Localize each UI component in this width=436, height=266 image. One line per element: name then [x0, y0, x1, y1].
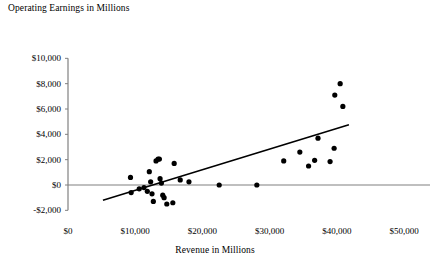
data-point [172, 161, 177, 166]
data-point [306, 163, 311, 168]
y-axis-tick-label: $0 [0, 180, 61, 190]
data-point [147, 169, 152, 174]
data-point [254, 182, 259, 187]
y-axis-tick-label: $10,000 [0, 53, 61, 63]
scatter-chart: Operating Earnings in Millions -$2,000$0… [0, 0, 436, 266]
data-point [145, 189, 150, 194]
x-axis-tick-label: $30,000 [255, 226, 284, 236]
data-point [297, 149, 302, 154]
data-point [129, 190, 134, 195]
data-point [148, 179, 153, 184]
data-point [128, 175, 133, 180]
data-point [159, 181, 164, 186]
x-axis-tick-label: $20,000 [188, 226, 217, 236]
data-point [170, 200, 175, 205]
data-point [186, 179, 191, 184]
data-points [128, 81, 346, 207]
data-point [332, 146, 337, 151]
data-point [327, 159, 332, 164]
data-point [340, 104, 345, 109]
data-point [137, 186, 142, 191]
data-point [315, 136, 320, 141]
data-point [157, 176, 162, 181]
y-axis-tick-label: -$2,000 [0, 205, 61, 215]
y-axis-tick-label: $2,000 [0, 155, 61, 165]
data-point [281, 158, 286, 163]
y-axis-tick-label: $8,000 [0, 79, 61, 89]
x-axis-tick-label: $40,000 [322, 226, 351, 236]
data-point [312, 158, 317, 163]
data-point [338, 81, 343, 86]
data-point [161, 195, 166, 200]
data-point [157, 156, 162, 161]
data-point [332, 92, 337, 97]
y-axis-tick-label: $4,000 [0, 129, 61, 139]
data-point [151, 199, 156, 204]
x-axis-tick-label: $0 [64, 226, 73, 236]
data-point [149, 191, 154, 196]
data-point [217, 182, 222, 187]
y-axis-tick-label: $6,000 [0, 104, 61, 114]
x-axis-tick-label: $50,000 [389, 226, 418, 236]
data-point [178, 177, 183, 182]
axes-layer [65, 58, 430, 210]
x-axis-title: Revenue in Millions [175, 245, 254, 255]
data-point [164, 201, 169, 206]
x-axis-tick-label: $10,000 [121, 226, 150, 236]
